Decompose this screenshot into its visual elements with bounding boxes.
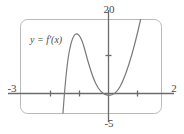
- function-label: y = f'(x): [29, 34, 63, 46]
- graph-figure: 20 -5 -3 2 y = f'(x): [0, 0, 184, 134]
- x-max-label: 2: [171, 82, 177, 94]
- graph-canvas: 20 -5 -3 2 y = f'(x): [0, 0, 184, 134]
- y-min-label: -5: [104, 117, 114, 129]
- x-min-label: -3: [7, 82, 17, 94]
- y-max-label: 20: [104, 3, 116, 15]
